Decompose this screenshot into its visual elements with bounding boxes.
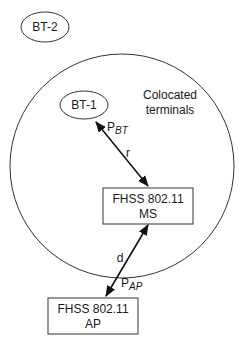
interference-diagram: Colocated terminals BT-2 BT-1 PBT r FHSS… bbox=[0, 0, 239, 341]
ms-label-line2: MS bbox=[139, 207, 157, 221]
colocated-region: Colocated terminals bbox=[10, 54, 234, 278]
bt1-node: BT-1 bbox=[60, 91, 108, 119]
edge-bt1-ms: PBT r bbox=[96, 120, 148, 186]
ap-node: FHSS 802.11 AP bbox=[48, 298, 138, 334]
ap-label-line2: AP bbox=[85, 317, 101, 331]
pbt-main: P bbox=[107, 120, 115, 134]
pbt-label: PBT bbox=[107, 120, 129, 136]
ap-label-line1: FHSS 802.11 bbox=[57, 302, 128, 316]
ms-label-line1: FHSS 802.11 bbox=[112, 192, 183, 206]
colocated-label-line2: terminals bbox=[146, 103, 195, 117]
ms-node: FHSS 802.11 MS bbox=[103, 188, 193, 224]
pap-label: PAP bbox=[121, 276, 143, 292]
bt2-label: BT-2 bbox=[32, 20, 58, 34]
colocated-circle bbox=[10, 54, 234, 278]
edge-ms-ap: d PAP bbox=[106, 225, 148, 296]
distance-r-label: r bbox=[126, 146, 130, 160]
pap-main: P bbox=[121, 276, 129, 290]
bt2-node: BT-2 bbox=[21, 12, 69, 42]
bt1-label: BT-1 bbox=[71, 98, 97, 112]
colocated-label-line1: Colocated bbox=[143, 88, 197, 102]
distance-d-label: d bbox=[117, 251, 124, 265]
pap-sub: AP bbox=[128, 281, 143, 292]
pbt-sub: BT bbox=[115, 125, 129, 136]
